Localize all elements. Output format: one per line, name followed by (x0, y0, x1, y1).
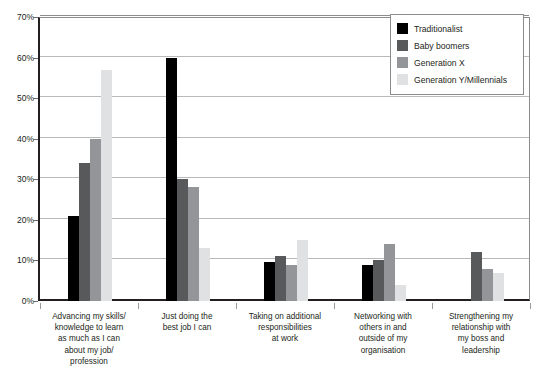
y-axis-tick-mark (33, 139, 38, 140)
y-axis-tick-mark (33, 301, 38, 302)
x-axis-category-label-line: Taking on additional (238, 311, 332, 322)
x-axis-category-label-line: best job I can (140, 322, 234, 333)
x-axis-category-label-line: responsibilities (238, 322, 332, 333)
x-axis-category-label-line: Advancing my skills/ (42, 311, 136, 322)
y-axis-tick-mark (33, 17, 38, 18)
x-axis-category-label-line: others in and (336, 322, 430, 333)
y-axis-tick-label: 50% (0, 94, 34, 103)
bar (395, 285, 406, 301)
y-axis-tick-label: 30% (0, 175, 34, 184)
legend-item-label: Generation Y/Millennials (414, 75, 507, 85)
legend: TraditionalistBaby boomersGeneration XGe… (390, 14, 524, 95)
x-axis-category-label: Just doing thebest job I can (140, 311, 234, 333)
bar (373, 260, 384, 301)
legend-swatch-icon (397, 23, 408, 34)
y-axis-tick-label: 20% (0, 216, 34, 225)
bar-group (68, 17, 112, 301)
bar (90, 139, 101, 301)
x-axis-category-label-line: Strengthening my (434, 311, 528, 322)
y-axis-tick-label: 40% (0, 135, 34, 144)
x-axis-category-label-line: Just doing the (140, 311, 234, 322)
x-axis-tick-mark (40, 303, 41, 309)
legend-item[interactable]: Traditionalist (397, 20, 517, 37)
y-axis-tick-label: 70% (0, 13, 34, 22)
x-axis-category-label-line: knowledge to learn (42, 322, 136, 333)
x-axis-category-label-line: leadership (434, 345, 528, 356)
bar (177, 179, 188, 301)
x-axis-category-label-line: my boss and (434, 333, 528, 344)
bar (482, 269, 493, 301)
x-axis-category-label-line: about my job/ (42, 345, 136, 356)
x-axis-tick-mark (530, 303, 531, 309)
x-axis-tick-mark (334, 303, 335, 309)
bar (493, 273, 504, 301)
bar (471, 252, 482, 301)
x-axis-category-label-line: as much as I can (42, 333, 136, 344)
grouped-bar-chart: 0%10%20%30%40%50%60%70% Advancing my ski… (0, 0, 538, 380)
bar-group (166, 17, 210, 301)
x-axis-tick-mark (432, 303, 433, 309)
y-axis-tick-label: 10% (0, 256, 34, 265)
x-axis-category-label-line: outside of my (336, 333, 430, 344)
y-axis-tick-mark (33, 220, 38, 221)
bar (384, 244, 395, 301)
bar (68, 216, 79, 301)
bar (166, 58, 177, 301)
bar (362, 265, 373, 302)
x-axis-category-label-line: relationship with (434, 322, 528, 333)
legend-item[interactable]: Baby boomers (397, 37, 517, 54)
legend-swatch-icon (397, 40, 408, 51)
y-axis-tick-mark (33, 179, 38, 180)
bar (264, 262, 275, 301)
bar (275, 256, 286, 301)
legend-item[interactable]: Generation X (397, 54, 517, 71)
x-axis-category-label: Advancing my skills/knowledge to learnas… (42, 311, 136, 367)
y-axis-tick-mark (33, 260, 38, 261)
bar (101, 70, 112, 301)
bar (297, 240, 308, 301)
x-axis-tick-mark (236, 303, 237, 309)
legend-swatch-icon (397, 74, 408, 85)
bar-group (264, 17, 308, 301)
x-axis-category-label-line: at work (238, 333, 332, 344)
x-axis-category-label: Strengthening myrelationship withmy boss… (434, 311, 528, 356)
bar (199, 248, 210, 301)
x-axis-tick-mark (138, 303, 139, 309)
x-axis-category-label: Taking on additionalresponsibilitiesat w… (238, 311, 332, 345)
x-axis-category-label-line: profession (42, 356, 136, 367)
bar (286, 265, 297, 302)
legend-item-label: Traditionalist (414, 24, 462, 34)
legend-item-label: Generation X (414, 58, 465, 68)
legend-swatch-icon (397, 57, 408, 68)
y-axis-tick-mark (33, 58, 38, 59)
legend-item[interactable]: Generation Y/Millennials (397, 71, 517, 88)
y-axis-tick-label: 60% (0, 54, 34, 63)
bar (79, 163, 90, 301)
x-axis-category-label-line: Networking with (336, 311, 430, 322)
legend-item-label: Baby boomers (414, 41, 469, 51)
y-axis-tick-label: 0% (0, 297, 34, 306)
y-axis-tick-mark (33, 98, 38, 99)
x-axis-category-label-line: organisation (336, 345, 430, 356)
x-axis-category-label: Networking withothers in andoutside of m… (336, 311, 430, 356)
bar (188, 187, 199, 301)
